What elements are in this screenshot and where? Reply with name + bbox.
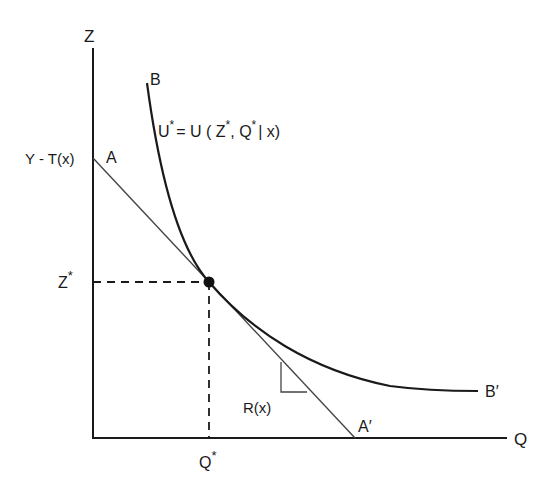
utility-equation: U*= U ( Z*, Q*| x) — [158, 118, 280, 140]
q-star-label: Q* — [199, 448, 217, 471]
tangency-point — [204, 277, 215, 288]
slope-label: R(x) — [243, 399, 271, 416]
line-label-a-prime: A′ — [358, 418, 372, 435]
diagram-canvas: Z Q B B′ A A′ Y - T(x) Z* Q* R(x) U*= U … — [0, 0, 545, 479]
z-axis-label: Z — [84, 27, 94, 46]
line-label-a: A — [106, 149, 117, 166]
curve-label-b-prime: B′ — [485, 383, 499, 400]
intercept-label: Y - T(x) — [25, 150, 74, 167]
q-axis-label: Q — [514, 430, 527, 449]
z-star-label: Z* — [58, 268, 73, 291]
curve-label-b: B — [150, 71, 161, 88]
slope-marker — [281, 362, 307, 392]
